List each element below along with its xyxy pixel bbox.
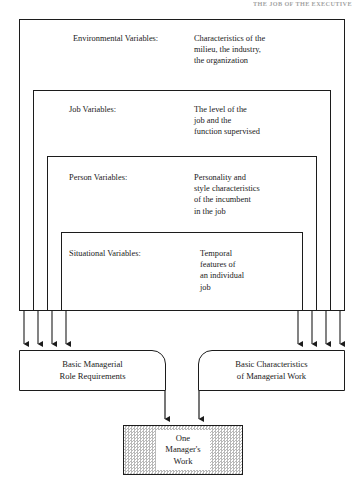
arrow-group-left: [24, 310, 66, 344]
desc-line: of the incumbent: [194, 194, 260, 205]
desc-line: features of: [200, 259, 244, 270]
desc-line: The level of the: [194, 104, 260, 115]
desc-line: the organization: [194, 55, 265, 66]
label-person-variables: Person Variables:: [69, 172, 194, 183]
output-line: Role Requirements: [59, 371, 125, 383]
output-line: Basic Managerial: [59, 359, 125, 371]
desc-line: an individual: [200, 270, 244, 281]
row-job-variables: Job Variables: The level of the job and …: [69, 104, 324, 138]
desc-line: style characteristics: [194, 183, 260, 194]
desc-line: job: [200, 282, 244, 293]
output-box-role-requirements: Basic Managerial Role Requirements: [19, 350, 166, 391]
figure-container: THE JOB OF THE EXECUTIVE Environmental V…: [0, 0, 364, 486]
final-box-one-managers-work: One Manager's Work: [123, 425, 243, 475]
desc-line: milieu, the industry,: [194, 44, 265, 55]
desc-person-variables: Personality and style characteristics of…: [194, 172, 260, 217]
frame-situational-bottom-edge: [61, 310, 303, 311]
desc-line: function supervised: [194, 126, 260, 137]
arrow-group-converge: [165, 391, 199, 419]
final-line: Work: [165, 456, 200, 468]
output-box-characteristics-of-work-text: Basic Characteristics of Managerial Work: [235, 359, 307, 382]
label-job-variables: Job Variables:: [69, 104, 194, 115]
output-line: Basic Characteristics: [235, 359, 307, 371]
output-box-role-requirements-text: Basic Managerial Role Requirements: [59, 359, 125, 382]
row-environmental-variables: Environmental Variables: Characteristics…: [73, 33, 328, 67]
final-line: One: [165, 433, 200, 445]
desc-line: Personality and: [194, 172, 260, 183]
final-line: Manager's: [165, 444, 200, 456]
desc-job-variables: The level of the job and the function su…: [194, 104, 260, 138]
output-line: of Managerial Work: [235, 371, 307, 383]
output-box-characteristics-of-work: Basic Characteristics of Managerial Work: [198, 350, 345, 391]
label-environmental-variables: Environmental Variables:: [73, 33, 194, 44]
desc-line: job and the: [194, 115, 260, 126]
desc-environmental-variables: Characteristics of the milieu, the indus…: [194, 33, 265, 67]
row-situational-variables: Situational Variables: Temporal features…: [69, 248, 324, 293]
running-head: THE JOB OF THE EXECUTIVE: [253, 0, 352, 7]
final-box-label: One Manager's Work: [156, 430, 209, 471]
desc-situational-variables: Temporal features of an individual job: [200, 248, 244, 293]
label-situational-variables: Situational Variables:: [69, 248, 200, 259]
desc-line: Temporal: [200, 248, 244, 259]
row-person-variables: Person Variables: Personality and style …: [69, 172, 324, 217]
desc-line: Characteristics of the: [194, 33, 265, 44]
arrow-group-right: [298, 310, 340, 344]
desc-line: in the job: [194, 206, 260, 217]
